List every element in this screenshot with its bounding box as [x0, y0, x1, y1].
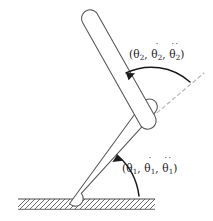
- diagram-canvas: [0, 0, 213, 221]
- theta2-term-0: θ2: [133, 49, 144, 60]
- theta1-close-paren: ): [173, 162, 177, 174]
- dashed-extension-axis: [152, 73, 204, 117]
- theta2-close-paren: ): [180, 48, 184, 60]
- theta2-comma-1: ,: [144, 48, 147, 60]
- theta1-comma-2: ,: [155, 162, 158, 174]
- theta2-comma-2: ,: [162, 48, 165, 60]
- theta1-term-2: ˙˙θ1: [162, 163, 173, 174]
- theta2-annotation: (θ2, ˙θ2, ˙˙θ2): [129, 49, 185, 60]
- theta1-term-1: ˙θ1: [144, 163, 155, 174]
- theta1-comma-1: ,: [137, 162, 140, 174]
- theta2-term-2: ˙˙θ2: [169, 49, 180, 60]
- two-link-manipulator-diagram: (θ2, ˙θ2, ˙˙θ2) (θ1, ˙θ1, ˙˙θ1): [0, 0, 213, 221]
- ground-hatching: [18, 199, 155, 209]
- theta1-annotation: (θ1, ˙θ1, ˙˙θ1): [122, 163, 178, 174]
- upper-link: [82, 10, 157, 129]
- theta2-term-1: ˙θ2: [151, 49, 162, 60]
- theta2-angle-arc: [126, 67, 190, 82]
- theta1-term-0: θ1: [126, 163, 137, 174]
